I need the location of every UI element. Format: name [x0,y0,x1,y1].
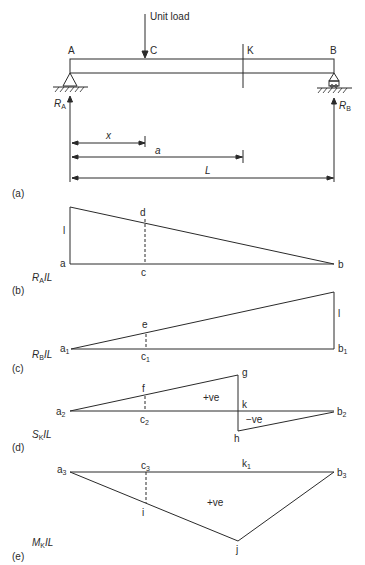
point-a1-label: a1 [60,344,69,355]
point-b-label-b: b [338,260,344,270]
point-h-label: h [234,434,240,444]
figure-tag-b: (b) [12,286,24,296]
rb-influence-line [71,292,334,349]
point-a-label-b: a [60,259,66,269]
point-c-label-b: c [141,268,146,278]
point-c3-label: c3 [141,461,150,472]
point-k1-label: k1 [242,459,251,470]
positive-region-label-e: +ve [207,498,223,508]
figure-tag-d: (d) [12,443,24,453]
figure-tag-e: (e) [12,552,24,562]
ground-hatch-left [55,87,84,92]
positive-region-label-d: +ve [203,393,219,403]
point-b3-label: b3 [337,468,346,479]
point-k-label: K [247,46,254,56]
mk-il-label: MKIL [32,538,53,549]
pin-support-icon [63,73,77,86]
sk-il-label: SKIL [32,430,52,441]
ordinate-l-label-c: l [338,309,340,319]
point-b2-label: b2 [337,407,346,418]
point-c2-label: c2 [140,415,149,426]
point-a2-label: a2 [56,407,65,418]
ra-influence-line [70,207,334,264]
roller-support-icon [329,73,339,81]
reaction-a-label: RA [54,99,66,110]
figure-tag-c: (c) [12,364,24,374]
point-c1-label: c1 [141,352,150,363]
dimension-x-label: x [106,131,111,141]
point-e-label: e [142,320,148,330]
reaction-b-label: RB [339,101,351,112]
ordinate-l-label-b: l [63,226,65,236]
unit-load-arrowhead [142,51,148,58]
sk-influence-line [70,375,334,431]
rb-il-label: RBIL [32,350,52,361]
influence-line-diagram [0,0,365,565]
point-b1-label: b1 [338,344,347,355]
point-d-label: d [140,208,146,218]
point-b-label: B [330,46,337,56]
point-i-label: i [142,508,144,518]
point-c-label: C [150,46,157,56]
ground-hatch-right [318,88,347,93]
point-f-label: f [142,384,145,394]
beam [70,59,334,73]
point-j-label: j [236,545,238,555]
negative-region-label-d: −ve [246,415,262,425]
point-a-label: A [68,46,75,56]
mk-influence-line [70,472,334,541]
ra-il-label: RAIL [32,273,52,284]
point-k-label-d: k [242,400,247,410]
point-a3-label: a3 [57,465,66,476]
point-g-label: g [242,368,248,378]
dimension-a-label: a [155,146,161,156]
unit-load-label: Unit load [150,12,189,22]
figure-tag-a: (a) [12,189,24,199]
dimension-l-label: L [205,166,211,176]
